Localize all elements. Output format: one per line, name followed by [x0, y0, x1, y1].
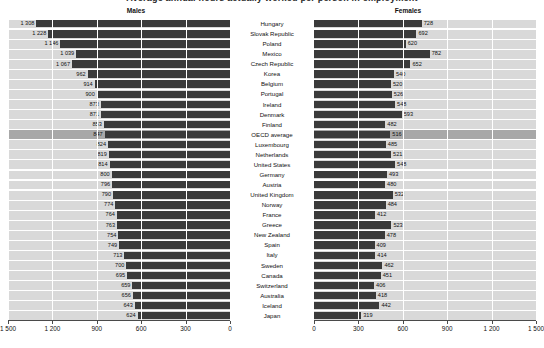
bar-row: 728	[314, 19, 536, 29]
country-label: Finland	[232, 120, 312, 130]
country-label: Portugal	[232, 89, 312, 99]
bar-row: 656	[8, 291, 230, 301]
bar-row: 824	[8, 140, 230, 150]
figure-title-text: Average annual hours actually worked per…	[0, 0, 544, 3]
bar-value-label: 774	[104, 201, 113, 208]
bar-males	[133, 292, 230, 299]
bar-value-label: 624	[126, 312, 135, 319]
axis-tick-label: 1 200	[484, 325, 500, 332]
bar-value-label: 516	[392, 131, 401, 138]
bar-females	[314, 292, 376, 299]
bar-row: 764	[8, 210, 230, 220]
bar-males	[72, 60, 230, 67]
country-label-list: HungarySlovak RepublicPolandMexicoCzech …	[232, 19, 312, 321]
bar-males	[118, 231, 230, 238]
bar-value-label: 493	[389, 171, 398, 178]
bar-row: 620	[314, 39, 536, 49]
bar-females	[314, 312, 361, 319]
cut-off-figure-title: Average annual hours actually worked per…	[0, 0, 544, 7]
bar-males	[97, 91, 230, 98]
bar-females	[314, 191, 393, 198]
bar-males	[105, 131, 230, 138]
bar-males	[119, 241, 230, 248]
bar-row: 659	[8, 281, 230, 291]
axis-tick-label: 1 500	[528, 325, 544, 332]
males-chart-panel: 1 3081 2281 1461 0391 067962914900873871…	[8, 19, 230, 321]
bar-value-label: 814	[98, 161, 107, 168]
axis-tick	[8, 321, 9, 324]
gridline	[186, 19, 187, 321]
bar-row: 478	[314, 230, 536, 240]
bar-females	[314, 221, 391, 228]
bar-row: 548	[314, 160, 536, 170]
bar-females	[314, 101, 395, 108]
bar-males	[127, 272, 230, 279]
country-label: Australia	[232, 291, 312, 301]
bar-females	[314, 20, 422, 27]
bar-males	[108, 141, 230, 148]
bar-females	[314, 282, 374, 289]
bar-row: 1 039	[8, 49, 230, 59]
country-label: United Kingdom	[232, 190, 312, 200]
bar-females	[314, 272, 381, 279]
axis-tick	[492, 321, 493, 324]
axis-tick-label: 0	[228, 325, 232, 332]
bar-row: 480	[314, 180, 536, 190]
bar-row: 796	[8, 180, 230, 190]
axis-tick	[403, 321, 404, 324]
country-label: United States	[232, 160, 312, 170]
country-label: New Zealand	[232, 230, 312, 240]
bar-row: 406	[314, 281, 536, 291]
bar-row: 442	[314, 301, 536, 311]
females-chart-panel: 7286926207826525405205265485934825164855…	[314, 19, 536, 321]
bar-females	[314, 30, 416, 37]
bar-value-label: 1 308	[20, 20, 34, 27]
bar-value-label: 593	[404, 111, 413, 118]
country-label: Korea	[232, 69, 312, 79]
bar-row: 790	[8, 190, 230, 200]
axis-tick-label: 1 200	[44, 325, 60, 332]
axis-tick-label: 600	[136, 325, 147, 332]
bar-females	[314, 91, 392, 98]
bar-value-label: 754	[107, 232, 116, 239]
bar-value-label: 406	[376, 282, 385, 289]
males-x-axis: 1 5001 2009006003000	[8, 321, 230, 337]
bar-males	[48, 30, 230, 37]
bar-row: 593	[314, 110, 536, 120]
bar-value-label: 643	[124, 302, 133, 309]
bar-value-label: 442	[381, 302, 390, 309]
axis-tick	[141, 321, 142, 324]
bar-row: 484	[314, 200, 536, 210]
bar-females	[314, 241, 375, 248]
bar-value-label: 478	[387, 232, 396, 239]
gridline	[536, 19, 537, 321]
bar-females	[314, 80, 391, 87]
country-label: Poland	[232, 39, 312, 49]
country-label: Slovak Republic	[232, 29, 312, 39]
females-x-axis: 03006009001 2001 500	[314, 321, 536, 337]
axis-tick-label: 300	[180, 325, 191, 332]
axis-tick-label: 900	[91, 325, 102, 332]
bar-value-label: 692	[418, 30, 427, 37]
bar-row: 482	[314, 120, 536, 130]
bar-males	[138, 312, 230, 319]
axis-tick	[52, 321, 53, 324]
bar-value-label: 656	[122, 292, 131, 299]
bar-females	[314, 141, 386, 148]
bar-row: 700	[8, 261, 230, 271]
bar-value-label: 480	[387, 181, 396, 188]
axis-tick	[447, 321, 448, 324]
axis-tick-label: 900	[442, 325, 453, 332]
bar-females	[314, 201, 386, 208]
bar-row: 1 067	[8, 59, 230, 69]
chart-page: Average annual hours actually worked per…	[0, 0, 544, 348]
males-plot-area: 1 3081 2281 1461 0391 067962914900873871…	[8, 19, 230, 321]
country-label: OECD average	[232, 130, 312, 140]
bar-females	[314, 60, 410, 67]
bar-females	[314, 40, 406, 47]
bar-females	[314, 50, 430, 57]
bar-value-label: 790	[102, 191, 111, 198]
bar-males	[95, 80, 230, 87]
bar-females	[314, 211, 375, 218]
bar-value-label: 319	[363, 312, 372, 319]
